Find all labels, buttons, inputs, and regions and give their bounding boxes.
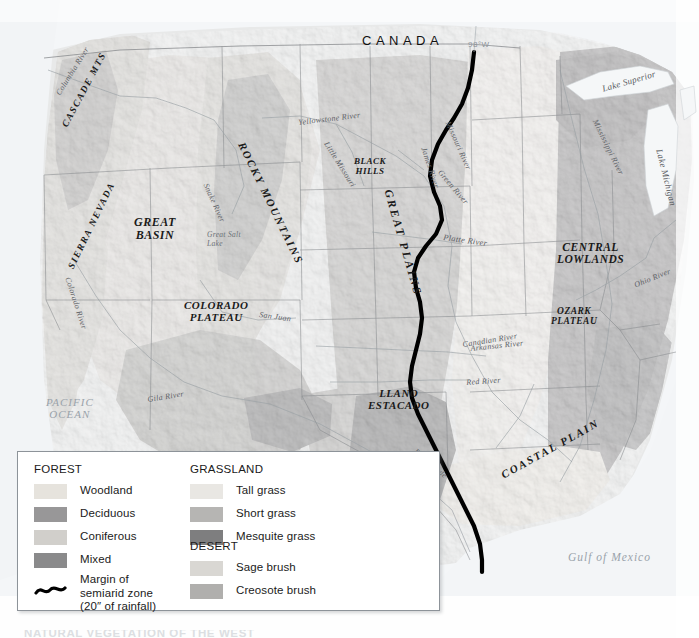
legend-swatch-creosote-brush [190,584,223,599]
legend-item-mixed[interactable]: Mixed [34,549,156,571]
legend-swatch-tall-grass [190,484,223,499]
legend-item-semiarid-margin[interactable]: Margin of semiarid zone (20″ of rainfall… [34,575,156,614]
legend-label-deciduous: Deciduous [80,507,135,521]
legend-label-coniferous: Coniferous [80,530,137,544]
legend-swatch-mixed [34,553,67,568]
figure-caption-text: NATURAL VEGETATION OF THE WEST [24,630,255,638]
legend-group-desert: DESERT Sage brush Creosote brush [190,540,316,603]
legend-group-grassland: GRASSLAND Tall grass Short grass Mesquit… [190,463,315,549]
legend-item-tall-grass[interactable]: Tall grass [190,480,315,502]
legend-swatch-deciduous [34,507,67,522]
legend-label-mixed: Mixed [80,553,111,567]
legend-label-short-grass: Short grass [236,507,296,521]
figure-caption: NATURAL VEGETATION OF THE WEST [24,630,364,638]
legend-header-grassland: GRASSLAND [190,463,315,475]
legend-header-forest: FOREST [34,463,156,475]
legend-label-woodland: Woodland [80,484,132,498]
legend-item-creosote-brush[interactable]: Creosote brush [190,580,316,602]
legend-label-tall-grass: Tall grass [236,484,286,498]
map-figure: CANADA MEXICO PACIFIC OCEAN Gulf of Mexi… [0,0,699,638]
legend-item-sage-brush[interactable]: Sage brush [190,557,316,579]
legend-swatch-short-grass [190,507,223,522]
wavy-line-icon [34,583,67,598]
legend-swatch-woodland [34,484,67,499]
legend-label-creosote-brush: Creosote brush [236,584,316,598]
legend-item-woodland[interactable]: Woodland [34,480,156,502]
legend-label-sage-brush: Sage brush [236,561,296,575]
legend-group-forest: FOREST Woodland Deciduous Coniferous Mix… [34,463,156,615]
legend-header-desert: DESERT [190,540,316,552]
legend-swatch-sage-brush [190,561,223,576]
map-legend: FOREST Woodland Deciduous Coniferous Mix… [17,451,440,611]
legend-item-coniferous[interactable]: Coniferous [34,526,156,548]
legend-item-short-grass[interactable]: Short grass [190,503,315,525]
legend-swatch-coniferous [34,530,67,545]
legend-item-deciduous[interactable]: Deciduous [34,503,156,525]
legend-label-semiarid-margin: Margin of semiarid zone (20″ of rainfall… [80,573,156,614]
